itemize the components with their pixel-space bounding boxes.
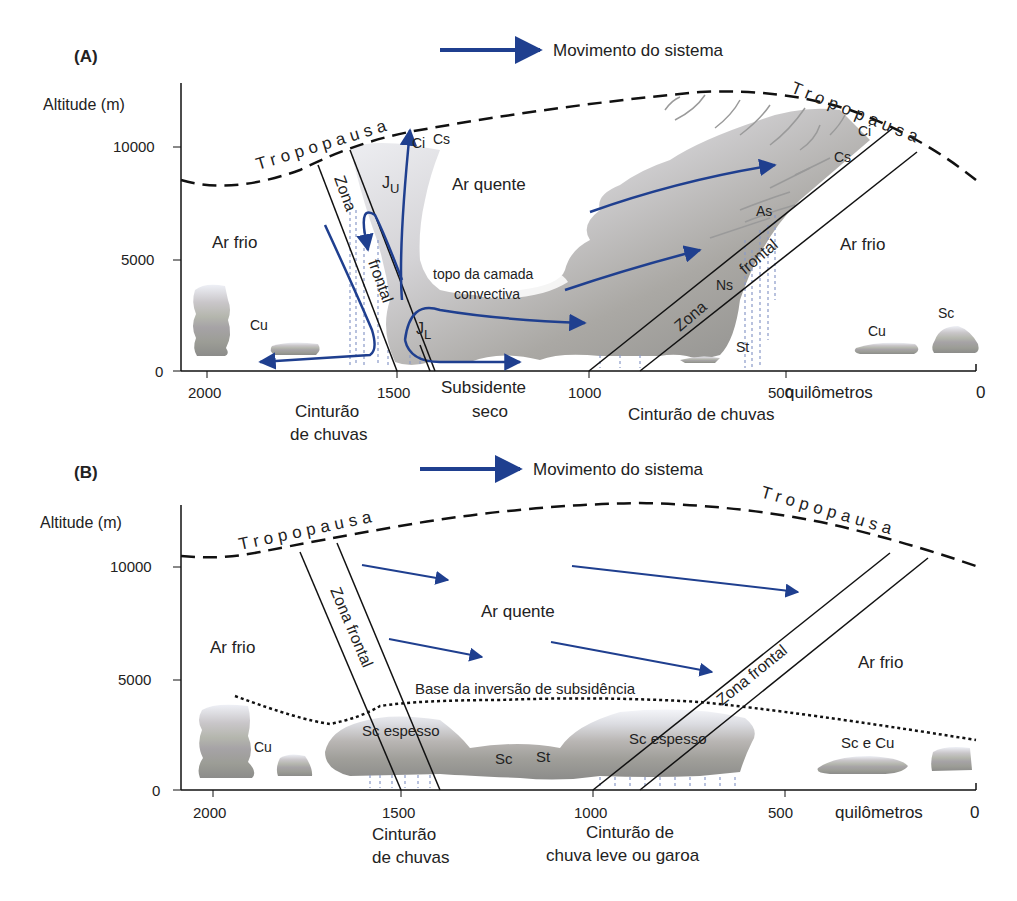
- cumulus-label-right: Cu: [868, 323, 886, 339]
- cirrostratus-label-left: Cs: [433, 131, 450, 147]
- x-tick-0: 0: [976, 383, 985, 402]
- drizzle-belt-line1: Cinturão de: [586, 823, 674, 842]
- cirrus-label-right: Ci: [858, 123, 871, 139]
- nimbostratus-label: Ns: [716, 277, 733, 293]
- legend-label: Movimento do sistema: [553, 41, 724, 60]
- dry-subsiding-line1: Subsidente: [441, 378, 526, 397]
- convective-top-label-2: convectiva: [454, 286, 520, 302]
- x-tick-2000: 2000: [188, 384, 221, 401]
- cumulus-label-left: Cu: [254, 739, 272, 755]
- tropopause-label-left: Tropopausa: [237, 506, 378, 554]
- rain-belt-right: Cinturão de chuvas: [628, 405, 774, 424]
- thick-sc-label-left: Sc espesso: [362, 722, 440, 739]
- st-label: St: [536, 748, 551, 765]
- cumulus-label-left: Cu: [250, 317, 268, 333]
- y-tick-5000: 5000: [118, 671, 151, 688]
- dry-subsiding-line2: seco: [472, 402, 508, 421]
- frontal-zone-right-label: Zona frontal: [713, 641, 790, 708]
- rain-belt-left-line2: de chuvas: [290, 425, 368, 444]
- small-cloud-left: [277, 754, 312, 776]
- warm-air-flow-arrows: [362, 565, 798, 672]
- cold-air-left-label: Ar frio: [212, 233, 257, 252]
- x-tick-0: 0: [970, 803, 979, 822]
- x-tick-1000: 1000: [568, 384, 601, 401]
- cirrus-label-left: Ci: [412, 135, 425, 151]
- drizzle-belt-line2: chuva leve ou garoa: [546, 846, 700, 865]
- frontal-zone-left-word1: Zona: [331, 173, 359, 213]
- stratus-label: St: [736, 339, 749, 355]
- x-tick-500: 500: [768, 804, 793, 821]
- small-cloud-left: [271, 342, 320, 355]
- sc-label: Sc: [495, 750, 513, 767]
- rain-belt-left-line1: Cinturão: [295, 402, 359, 421]
- panel-b-tag: (B): [74, 463, 98, 482]
- frontal-zone-left-label: Zona frontal: [327, 585, 376, 670]
- thick-sc-label-right: Sc espesso: [629, 730, 707, 747]
- y-tick-10000: 10000: [113, 138, 155, 155]
- cumulus-cloud-right: [855, 343, 919, 354]
- y-tick-10000: 10000: [110, 558, 152, 575]
- legend-label: Movimento do sistema: [533, 460, 704, 479]
- x-unit-label: quilômetros: [785, 383, 873, 402]
- y-tick-0: 0: [155, 363, 163, 380]
- cumulus-cloud-left: [193, 285, 230, 356]
- cold-air-right-label: Ar frio: [858, 653, 903, 672]
- x-unit-label: quilômetros: [835, 803, 923, 822]
- frontal-cross-section-diagram: (A) Movimento do sistema Altitude (m) 10…: [0, 0, 1017, 901]
- rain-belt-line1: Cinturão: [372, 825, 436, 844]
- x-tick-2000: 2000: [193, 804, 226, 821]
- sc-cu-cloud-right: [818, 756, 909, 774]
- cold-air-left-label: Ar frio: [210, 638, 255, 657]
- x-tick-1500: 1500: [377, 384, 410, 401]
- warm-air-label: Ar quente: [452, 175, 526, 194]
- panel-a-tag: (A): [74, 47, 98, 66]
- y-axis-label: Altitude (m): [40, 514, 122, 531]
- cold-air-right-label: Ar frio: [840, 235, 885, 254]
- altostratus-label: As: [756, 203, 772, 219]
- convective-top-label-1: topo da camada: [433, 266, 534, 282]
- panel-b: (B) Movimento do sistema Altitude (m) 10…: [40, 460, 979, 867]
- y-axis-label: Altitude (m): [43, 96, 125, 113]
- warm-air-label: Ar quente: [481, 602, 555, 621]
- tropopause-label-right: Tropopausa: [759, 483, 899, 540]
- sc-cu-label-right: Sc e Cu: [841, 734, 894, 751]
- y-tick-5000: 5000: [121, 251, 154, 268]
- rain-belt-line2: de chuvas: [372, 848, 450, 867]
- inversion-label: Base da inversão de subsidência: [415, 680, 636, 697]
- cumulus-cloud-left: [199, 705, 255, 778]
- small-cloud-right: [931, 747, 972, 771]
- x-tick-1000: 1000: [574, 804, 607, 821]
- x-tick-1500: 1500: [382, 804, 415, 821]
- stratocumulus-cloud-right: [932, 326, 978, 353]
- y-tick-0: 0: [152, 782, 160, 799]
- stratocumulus-label-right: Sc: [938, 305, 954, 321]
- panel-a: (A) Movimento do sistema Altitude (m) 10…: [43, 41, 985, 444]
- cirrostratus-label-right: Cs: [834, 149, 851, 165]
